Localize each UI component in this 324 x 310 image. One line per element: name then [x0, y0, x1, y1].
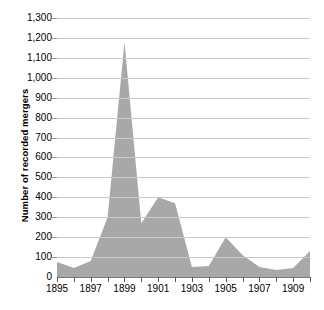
x-tick-label: 1905 — [209, 283, 243, 295]
x-tick — [310, 277, 311, 282]
gridline — [57, 257, 310, 258]
gridline — [57, 98, 310, 99]
y-tick-label: 500 — [6, 172, 52, 182]
x-tick — [158, 277, 159, 282]
y-tick-label: 400 — [6, 192, 52, 202]
x-tick — [226, 277, 227, 282]
x-tick — [108, 277, 109, 282]
y-tick-label: 1,000 — [6, 73, 52, 83]
x-tick-label: 1909 — [276, 283, 310, 295]
area-series-svg — [57, 18, 310, 277]
gridline — [57, 18, 310, 19]
gridline — [57, 38, 310, 39]
y-tick-label: 300 — [6, 212, 52, 222]
x-tick-label: 1903 — [175, 283, 209, 295]
y-tick-label: 0 — [6, 272, 52, 282]
x-tick — [192, 277, 193, 282]
gridline — [57, 177, 310, 178]
x-tick-label: 1907 — [242, 283, 276, 295]
y-tick-label: 700 — [6, 133, 52, 143]
gridline — [57, 197, 310, 198]
gridline — [57, 58, 310, 59]
x-tick — [74, 277, 75, 282]
y-tick-label: 1,300 — [6, 13, 52, 23]
x-tick-label: 1895 — [40, 283, 74, 295]
gridline — [57, 138, 310, 139]
y-axis-tick-labels: 01002003004005006007008009001,0001,1001,… — [0, 0, 52, 310]
x-axis-tick-labels: 18951897189919011903190519071909 — [0, 283, 324, 299]
x-tick — [57, 277, 58, 282]
y-tick-label: 800 — [6, 113, 52, 123]
x-tick — [259, 277, 260, 282]
gridline — [57, 157, 310, 158]
y-tick-label: 900 — [6, 93, 52, 103]
mergers-area-chart: Number of recorded mergers 0100200300400… — [0, 0, 324, 310]
gridline — [57, 78, 310, 79]
x-tick — [243, 277, 244, 282]
x-tick-label: 1901 — [141, 283, 175, 295]
x-tick-label: 1899 — [107, 283, 141, 295]
x-tick — [141, 277, 142, 282]
y-tick-label: 1,200 — [6, 33, 52, 43]
x-tick — [175, 277, 176, 282]
gridline — [57, 237, 310, 238]
x-tick-label: 1897 — [74, 283, 108, 295]
y-tick-label: 100 — [6, 252, 52, 262]
plot-area — [57, 18, 310, 277]
y-tick-label: 600 — [6, 152, 52, 162]
x-tick — [91, 277, 92, 282]
gridline — [57, 118, 310, 119]
y-tick-label: 200 — [6, 232, 52, 242]
gridline — [57, 217, 310, 218]
y-tick-label: 1,100 — [6, 53, 52, 63]
x-tick — [276, 277, 277, 282]
x-tick — [293, 277, 294, 282]
x-tick — [124, 277, 125, 282]
x-tick — [209, 277, 210, 282]
